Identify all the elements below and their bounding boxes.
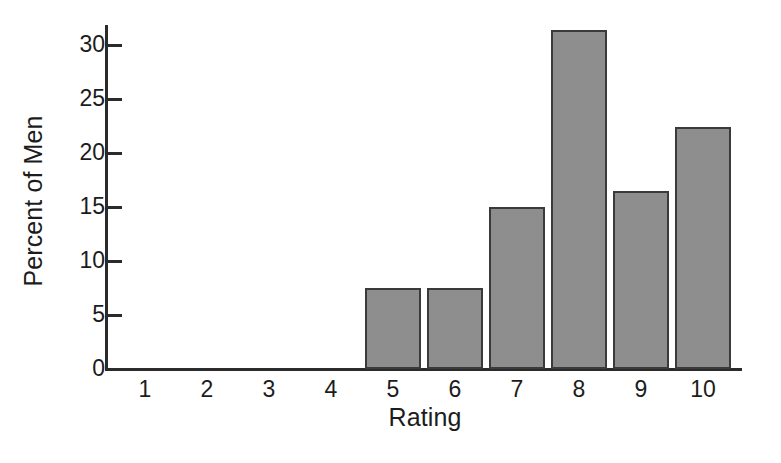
y-axis-tick-label: 15 [59, 195, 105, 218]
x-axis-tick-label: 2 [176, 378, 238, 401]
bar [675, 127, 731, 369]
bar [551, 30, 607, 369]
x-axis-tick-label: 7 [486, 378, 548, 401]
y-axis-tick-label: 25 [59, 87, 105, 110]
x-axis-tick-label: 3 [238, 378, 300, 401]
bar [489, 207, 545, 369]
y-axis-tick-label: 10 [59, 249, 105, 272]
x-axis-tick-label: 6 [424, 378, 486, 401]
x-axis-tick-label: 8 [548, 378, 610, 401]
x-axis-tick-label: 10 [672, 378, 734, 401]
bar [613, 191, 669, 369]
x-axis-tick-label: 1 [114, 378, 176, 401]
y-axis-tick-labels: 051015202530 [0, 0, 105, 463]
bar [365, 288, 421, 369]
y-axis-tick-label: 0 [59, 357, 105, 380]
x-axis-title: Rating [105, 403, 745, 432]
x-axis-tick-label: 5 [362, 378, 424, 401]
x-axis-tick-label: 9 [610, 378, 672, 401]
bar [427, 288, 483, 369]
x-axis-tick-label: 4 [300, 378, 362, 401]
y-axis-tick-label: 30 [59, 33, 105, 56]
bar-series [105, 25, 742, 369]
y-axis-tick-label: 5 [59, 303, 105, 326]
y-axis-tick-label: 20 [59, 141, 105, 164]
bar-chart-figure: Percent of Men 051015202530 12345678910 … [0, 0, 781, 463]
